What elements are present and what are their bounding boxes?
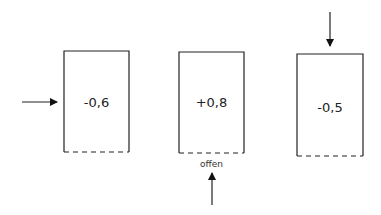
box-1-value: -0,6 <box>84 95 109 110</box>
box-2-value: +0,8 <box>196 95 228 110</box>
open-side-label: offen <box>200 159 223 169</box>
box-3: -0,5 <box>297 54 363 156</box>
diagram-canvas: -0,6 +0,8 offen -0,5 <box>0 0 381 215</box>
box-1: -0,6 <box>64 51 129 152</box>
box-3-value: -0,5 <box>317 100 342 115</box>
box-2: +0,8 offen <box>179 52 244 169</box>
